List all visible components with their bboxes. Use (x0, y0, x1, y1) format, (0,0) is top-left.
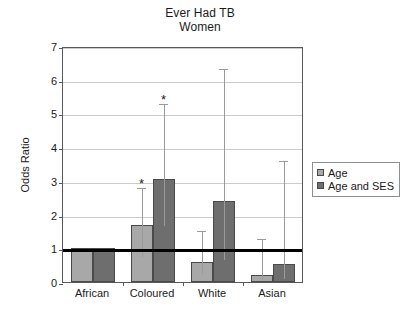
significance-star-coloured-age: * (135, 179, 149, 189)
ytick-5 (59, 115, 63, 116)
significance-star-coloured-age-ses: * (157, 95, 171, 105)
gridline-5 (63, 115, 302, 116)
gridline-4 (63, 149, 302, 150)
errorbar-cap-white-age (197, 231, 206, 232)
ytick-3 (59, 183, 63, 184)
gridline-2 (63, 217, 302, 218)
reference-line-or-1 (63, 249, 302, 252)
xtick-2 (183, 282, 184, 286)
legend-label-age: Age (328, 167, 348, 179)
ytick-label-7: 7 (29, 41, 57, 53)
ytick-4 (59, 149, 63, 150)
xtick-3 (243, 282, 244, 286)
legend-label-age-ses: Age and SES (328, 180, 394, 192)
ytick-label-1: 1 (29, 243, 57, 255)
ytick-2 (59, 217, 63, 218)
chart-subtitle: Women (0, 20, 400, 34)
ytick-label-4: 4 (29, 142, 57, 154)
bar-african-age-ses (93, 248, 115, 282)
gridline-3 (63, 183, 302, 184)
chart-legend: Age Age and SES (312, 162, 400, 197)
errorbar-cap-asian-age-ses (279, 161, 288, 162)
chart-title: Ever Had TB (0, 6, 400, 20)
bar-african-age (71, 248, 93, 282)
errorbar-white-age (202, 232, 203, 276)
legend-item-age-ses: Age and SES (317, 179, 394, 192)
ytick-7 (59, 48, 63, 49)
xtick-1 (123, 282, 124, 286)
gridline-6 (63, 82, 302, 83)
plot-area: 7 6 5 4 3 2 1 0 (62, 47, 303, 283)
errorbar-cap-asian-age (257, 239, 266, 240)
ytick-6 (59, 82, 63, 83)
ytick-label-6: 6 (29, 75, 57, 87)
ytick-label-2: 2 (29, 210, 57, 222)
errorbar-asian-age-ses (284, 162, 285, 278)
ytick-0 (59, 284, 63, 285)
ytick-label-3: 3 (29, 176, 57, 188)
errorbar-asian-age (262, 240, 263, 280)
errorbar-coloured-age (142, 189, 143, 256)
errorbar-white-age-ses (224, 70, 225, 261)
gridline-7 (63, 48, 302, 49)
chart-title-block: Ever Had TB Women (0, 6, 400, 34)
ytick-label-5: 5 (29, 108, 57, 120)
errorbar-coloured-age-ses (164, 105, 165, 226)
errorbar-cap-white-age-ses (219, 69, 228, 70)
chart-figure: Ever Had TB Women Odds Ratio 7 6 5 4 3 2… (0, 0, 400, 313)
legend-swatch-age-ses-icon (317, 182, 324, 189)
legend-swatch-age-icon (317, 169, 324, 176)
legend-item-age: Age (317, 166, 394, 179)
xtick-label-asian: Asian (232, 287, 312, 299)
